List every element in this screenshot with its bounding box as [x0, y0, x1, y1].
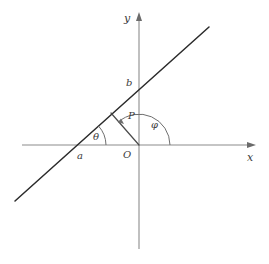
origin-label: O: [123, 150, 131, 160]
y-axis-arrowhead: [136, 12, 142, 21]
y-intercept-label-b: b: [126, 78, 132, 88]
phi-angle-label: φ: [151, 120, 158, 130]
perpendicular-length-label-p: P: [128, 111, 135, 121]
figure-drawing: [0, 0, 269, 264]
x-intercept-label-a: a: [77, 151, 83, 161]
figure-canvas: y x O a b P θ φ: [0, 0, 269, 264]
theta-angle-label: θ: [93, 132, 99, 142]
theta-angle-arc: [99, 126, 107, 145]
y-axis-label: y: [124, 13, 130, 24]
x-axis-arrowhead: [247, 142, 256, 148]
x-axis-label: x: [247, 152, 253, 163]
phi-arc-arrowhead: [118, 119, 124, 125]
